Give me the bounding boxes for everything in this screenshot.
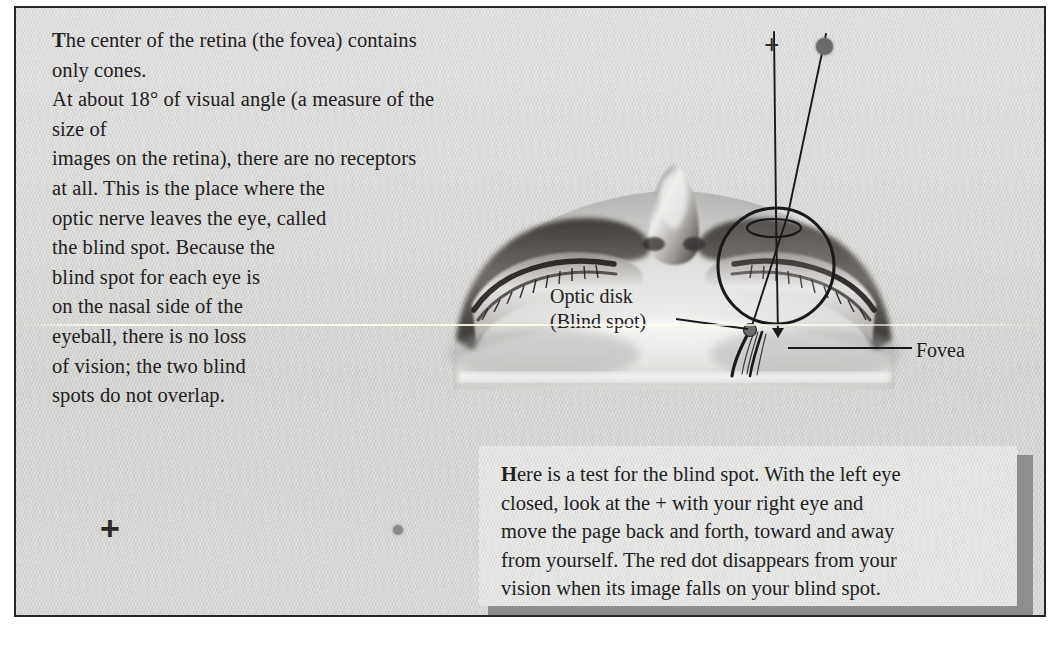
figure-page: The center of the retina (the fovea) con… xyxy=(0,0,1060,645)
label-optic-disk-line2: (Blind spot) xyxy=(550,309,646,334)
scanned-page-sheet: The center of the retina (the fovea) con… xyxy=(14,6,1046,617)
body-paragraph: The center of the retina (the fovea) con… xyxy=(52,26,452,411)
plus-marker-top: + xyxy=(764,32,779,59)
blind-spot-test-plus: + xyxy=(100,511,120,545)
caption-panel: Here is a test for the blind spot. With … xyxy=(479,446,1017,606)
body-paragraph-text: he center of the retina (the fovea) cont… xyxy=(52,29,434,406)
label-optic-disk-line1: Optic disk xyxy=(550,284,646,309)
label-optic-disk: Optic disk (Blind spot) xyxy=(550,284,646,334)
label-fovea: Fovea xyxy=(916,338,965,363)
body-dropcap: T xyxy=(52,29,66,51)
caption-body-text: ere is a test for the blind spot. With t… xyxy=(501,463,901,599)
dot-marker-top xyxy=(816,38,833,55)
caption-text-block: Here is a test for the blind spot. With … xyxy=(501,460,1003,603)
head-illustration xyxy=(414,104,934,389)
caption-dropcap: H xyxy=(501,463,517,485)
blind-spot-test-dot xyxy=(393,525,403,535)
